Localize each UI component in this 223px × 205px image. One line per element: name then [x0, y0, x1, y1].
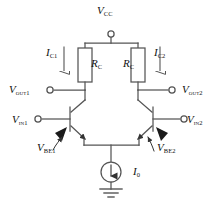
- vout2-terminal: [169, 87, 175, 93]
- label-vcc: VCC: [97, 5, 113, 16]
- resistor-left-body: [78, 48, 92, 82]
- vcc-terminal: [108, 31, 114, 37]
- label-input-1: Vin1: [12, 114, 28, 125]
- label-tail-current: I0: [133, 166, 140, 177]
- schematic-canvas: VCC IC1 RC RC IC2 Vout1 Vout2 Vin1 Vin2 …: [0, 0, 223, 205]
- vout1-terminal: [47, 87, 53, 93]
- label-collector-current-2: IC2: [154, 47, 165, 58]
- label-output-1: Vout1: [9, 84, 30, 95]
- vin1-terminal: [35, 116, 41, 122]
- vbe2-pointer: [156, 127, 168, 141]
- circuit-schematic: [0, 0, 223, 205]
- label-vbe-2: VBE2: [157, 142, 176, 153]
- label-vbe-1: VBE1: [37, 142, 56, 153]
- label-output-2: Vout2: [182, 84, 203, 95]
- label-resistor-right: RC: [123, 58, 134, 69]
- vbe2-leader: [148, 137, 154, 151]
- label-input-2: Vin2: [187, 114, 203, 125]
- ground-symbol: [100, 189, 122, 197]
- emitter-tail-wiring: [84, 139, 139, 162]
- label-resistor-left: RC: [91, 58, 102, 69]
- label-collector-current-1: IC1: [46, 47, 57, 58]
- supply-rail: [85, 37, 138, 48]
